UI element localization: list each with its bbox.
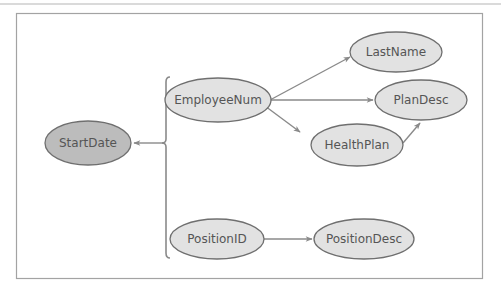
node-label: HealthPlan xyxy=(325,138,390,152)
node-positionid: PositionID xyxy=(170,219,264,259)
node-label: PlanDesc xyxy=(393,93,448,107)
node-plandesc: PlanDesc xyxy=(375,80,467,120)
node-healthplan: HealthPlan xyxy=(311,124,403,166)
node-label: EmployeeNum xyxy=(174,93,262,107)
node-employeenum: EmployeeNum xyxy=(165,78,271,122)
node-startdate: StartDate xyxy=(45,121,131,165)
node-label: PositionID xyxy=(187,232,247,246)
node-lastname: LastName xyxy=(350,32,442,72)
node-label: StartDate xyxy=(59,136,117,150)
dependency-diagram: StartDateEmployeeNumLastNamePlanDescHeal… xyxy=(0,0,501,289)
node-positiondesc: PositionDesc xyxy=(314,219,414,259)
node-label: LastName xyxy=(366,45,426,59)
node-label: PositionDesc xyxy=(326,232,402,246)
